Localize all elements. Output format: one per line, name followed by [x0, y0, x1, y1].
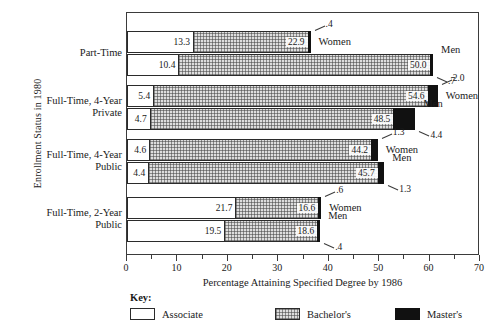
segment-value-label: 16.6 [297, 203, 319, 213]
category-label: Full-Time, 4-Year Public [12, 149, 122, 173]
bar-row[interactable]: 21.716.6 [127, 197, 321, 219]
x-tick-minor [454, 255, 455, 259]
segment-value-label: 48.5 [372, 114, 394, 124]
masters-value-callout: .6 [336, 185, 343, 196]
masters-segment[interactable] [371, 139, 378, 161]
x-tick-label: 70 [464, 262, 494, 273]
x-tick-major [429, 255, 430, 261]
legend-item-label: Associate [162, 309, 203, 320]
series-group-label: Men [328, 210, 347, 221]
segment-value-label: 22.9 [286, 37, 308, 47]
masters-value-callout: 2.0 [453, 73, 465, 84]
x-tick-label: 40 [313, 262, 343, 273]
bars-layer: 13.322.9.4Women10.450.0.7Men5.454.62.0Wo… [127, 13, 478, 254]
legend-item-label: Master's [427, 309, 462, 320]
x-tick-label: 30 [262, 262, 292, 273]
masters-value-callout: 4.4 [430, 130, 442, 141]
segment-value-label: 44.2 [349, 145, 371, 155]
legend-item[interactable]: Master's [395, 308, 462, 320]
bar-row[interactable]: 13.322.9 [127, 31, 311, 53]
bar-row[interactable]: 5.454.6 [127, 85, 438, 107]
segment-value-label: 4.7 [135, 114, 150, 124]
x-tick-major [479, 255, 480, 261]
associate-swatch [130, 308, 155, 320]
masters-value-callout: .4 [335, 242, 342, 253]
category-label-group: Part-TimeFull-Time, 4-Year PrivateFull-T… [8, 0, 122, 260]
associate-segment[interactable]: 13.3 [127, 31, 194, 53]
x-axis-title: Percentage Attaining Specified Degree by… [126, 277, 479, 288]
bachelors-segment[interactable]: 16.6 [235, 197, 319, 219]
masters-value-callout: 1.3 [393, 127, 405, 138]
masters-segment[interactable] [308, 31, 311, 53]
x-tick-label: 50 [363, 262, 393, 273]
associate-segment[interactable]: 10.4 [127, 54, 179, 76]
bar-row[interactable]: 19.518.6 [127, 220, 320, 242]
masters-segment[interactable] [378, 162, 385, 184]
bachelors-segment[interactable]: 50.0 [178, 54, 430, 76]
legend-item[interactable]: Bachelor's [275, 308, 351, 320]
x-tick-minor [303, 255, 304, 259]
bar-row[interactable]: 4.748.5 [127, 108, 415, 130]
legend-items: AssociateBachelor'sMaster's [130, 308, 460, 324]
series-group-label: Women [446, 90, 478, 101]
associate-segment[interactable]: 21.7 [127, 197, 236, 219]
masters-segment[interactable] [318, 197, 321, 219]
masters-segment[interactable] [430, 54, 434, 76]
bachelors-segment[interactable]: 54.6 [153, 85, 428, 107]
chart-figure: Enrollment Status in 1980 Part-TimeFull-… [0, 0, 503, 336]
associate-segment[interactable]: 5.4 [127, 85, 154, 107]
series-group-label: Men [441, 44, 460, 55]
associate-segment[interactable]: 4.7 [127, 108, 151, 130]
plot-area: 13.322.9.4Women10.450.0.7Men5.454.62.0Wo… [126, 12, 479, 255]
masters-swatch [395, 308, 420, 320]
x-tick-major [176, 255, 177, 261]
x-tick-label: 20 [212, 262, 242, 273]
x-tick-minor [202, 255, 203, 259]
callout-leader-line [325, 192, 335, 197]
series-group-label: Men [392, 152, 411, 163]
series-group-label: Women [319, 36, 351, 47]
x-tick-label: 60 [414, 262, 444, 273]
bar-row[interactable]: 4.644.2 [127, 139, 378, 161]
bachelors-segment[interactable]: 22.9 [193, 31, 308, 53]
category-label: Full-Time, 2-Year Public [12, 207, 122, 231]
category-label: Part-Time [12, 47, 122, 59]
segment-value-label: 50.0 [408, 60, 430, 70]
bachelors-segment[interactable]: 18.6 [224, 220, 318, 242]
category-label: Full-Time, 4-Year Private [12, 95, 122, 119]
callout-leader-line [314, 26, 324, 31]
bar-row[interactable]: 4.445.7 [127, 162, 384, 184]
x-tick-major [227, 255, 228, 261]
callout-leader-line [324, 243, 334, 248]
legend-item[interactable]: Associate [130, 308, 203, 320]
segment-value-label: 21.7 [216, 203, 236, 213]
bar-row[interactable]: 10.450.0 [127, 54, 433, 76]
x-tick-major [378, 255, 379, 261]
legend-title: Key: [130, 292, 460, 303]
x-tick-minor [403, 255, 404, 259]
masters-segment[interactable] [317, 220, 320, 242]
segment-value-label: 4.6 [134, 145, 149, 155]
x-tick-major [328, 255, 329, 261]
segment-value-label: 19.5 [205, 226, 225, 236]
bachelors-segment[interactable]: 45.7 [148, 162, 378, 184]
associate-segment[interactable]: 4.4 [127, 162, 149, 184]
x-tick-minor [252, 255, 253, 259]
legend: Key: AssociateBachelor'sMaster's [130, 292, 460, 324]
bachelors-segment[interactable]: 48.5 [150, 108, 395, 130]
segment-value-label: 13.3 [173, 37, 193, 47]
segment-value-label: 10.4 [159, 60, 179, 70]
segment-value-label: 4.4 [133, 168, 148, 178]
x-tick-minor [353, 255, 354, 259]
segment-value-label: 18.6 [296, 226, 318, 236]
x-tick-minor [151, 255, 152, 259]
x-tick-label: 0 [111, 262, 141, 273]
associate-segment[interactable]: 4.6 [127, 139, 150, 161]
masters-value-callout: 1.3 [399, 184, 411, 195]
callout-leader-line [388, 185, 398, 190]
segment-value-label: 5.4 [138, 91, 153, 101]
associate-segment[interactable]: 19.5 [127, 220, 225, 242]
segment-value-label: 45.7 [356, 168, 378, 178]
bachelors-segment[interactable]: 44.2 [149, 139, 372, 161]
x-tick-major [277, 255, 278, 261]
